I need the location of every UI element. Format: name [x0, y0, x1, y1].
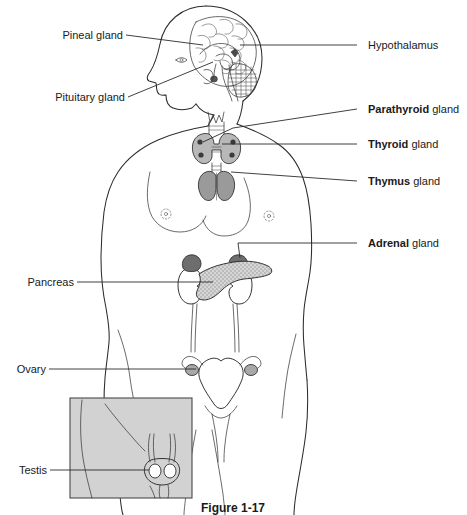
- thyroid-complex-group: [192, 112, 240, 201]
- thalamus-outline: [216, 54, 233, 69]
- brain-group: [176, 17, 257, 101]
- label-adrenal-gland: Adrenal gland: [368, 237, 439, 249]
- uterus: [199, 358, 243, 408]
- label-testis: Testis: [19, 464, 48, 476]
- label-parathyroid-bold: Parathyroid: [368, 103, 429, 115]
- endocrine-diagram: Pineal gland Pituitary gland Pancreas Ov…: [0, 0, 467, 515]
- testis-left: [149, 464, 161, 478]
- endocrine-system-figure: Pineal gland Pituitary gland Pancreas Ov…: [0, 0, 467, 515]
- ureter-right-2: [233, 304, 235, 352]
- larynx: [208, 112, 224, 123]
- ovary-right: [245, 365, 258, 376]
- reproductive-group: [182, 356, 261, 462]
- nipple-left-inner: [164, 212, 167, 215]
- label-thyroid-rest: gland: [408, 138, 438, 150]
- thyroid-gland: [192, 133, 240, 163]
- trachea-lower: [212, 163, 221, 172]
- ureter-right: [237, 304, 239, 352]
- neck-back: [237, 101, 243, 124]
- label-thymus-gland: Thymus gland: [368, 175, 440, 187]
- parathyroid-gland-lower-right: [229, 152, 234, 157]
- label-adrenal-bold: Adrenal: [368, 237, 409, 249]
- hip-contour-right: [282, 334, 296, 418]
- brainstem: [222, 66, 232, 101]
- label-parathyroid-rest: gland: [429, 103, 459, 115]
- label-pancreas: Pancreas: [28, 276, 75, 288]
- vagina: [212, 414, 218, 462]
- label-hypothalamus: Hypothalamus: [368, 39, 439, 51]
- ureter-left: [191, 304, 193, 352]
- trachea-upper: [209, 122, 224, 134]
- torso-right-side: [237, 124, 312, 380]
- nipple-right-inner: [267, 214, 270, 217]
- trachea-rings-upper: [209, 126, 224, 130]
- label-parathyroid-gland: Parathyroid gland: [368, 103, 459, 115]
- label-adrenal-rest: gland: [409, 237, 439, 249]
- nipple-right: [264, 211, 274, 221]
- label-pituitary-gland: Pituitary gland: [55, 91, 125, 103]
- testis-inset-group: [70, 398, 192, 498]
- label-thyroid-bold: Thyroid: [368, 138, 408, 150]
- ovary-left: [186, 365, 199, 376]
- pituitary-stalk: [214, 64, 216, 76]
- breast-left-contour: [147, 172, 206, 232]
- figure-caption: Figure 1-17: [201, 501, 265, 515]
- label-pineal-gland: Pineal gland: [62, 29, 123, 41]
- leader-line-parathyroid: [233, 109, 357, 128]
- parathyroid-gland-lower-left: [198, 152, 203, 157]
- leader-line-pineal: [126, 35, 203, 45]
- leg-right-outer: [294, 380, 308, 515]
- label-thymus-rest: gland: [410, 175, 440, 187]
- leader-line-thymus: [231, 172, 357, 181]
- ureter-left-2: [195, 304, 197, 352]
- testis-right: [164, 464, 176, 478]
- adrenal-gland-left: [182, 255, 201, 272]
- nipple-left: [161, 209, 171, 219]
- leader-line-pituitary: [128, 62, 213, 97]
- parathyroid-gland-upper-left: [197, 139, 202, 144]
- abdominal-organs-group: [178, 255, 272, 352]
- jaw-neck: [196, 104, 214, 115]
- label-ovary: Ovary: [17, 363, 47, 375]
- label-thyroid-gland: Thyroid gland: [368, 138, 438, 150]
- label-thymus-bold: Thymus: [368, 175, 410, 187]
- pupil: [180, 59, 183, 62]
- kidney-left: [178, 268, 201, 304]
- vagina-2: [224, 414, 230, 462]
- pineal-gland: [231, 49, 238, 57]
- trachea-rings-lower: [212, 166, 221, 170]
